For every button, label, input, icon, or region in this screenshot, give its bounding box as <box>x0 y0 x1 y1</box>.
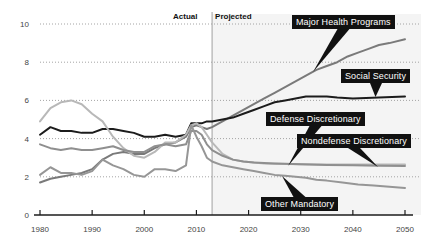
y-tick-label: 10 <box>20 20 29 29</box>
y-tick-label: 2 <box>25 173 30 182</box>
actual-period-label: Actual <box>173 12 197 21</box>
x-tick-label: 2020 <box>240 225 258 234</box>
callout-arrow <box>370 83 384 99</box>
y-tick-label: 0 <box>25 211 30 220</box>
callout-nondefense-discretionary: Nondefense Discretionary <box>297 134 411 148</box>
y-tick-label: 8 <box>25 58 30 67</box>
x-tick-label: 2030 <box>292 225 310 234</box>
callout-defense-discretionary: Defense Discretionary <box>266 112 365 126</box>
callout-arrow <box>348 148 381 169</box>
x-axis-tick-labels: 19801990200020102020203020402050 <box>31 225 414 234</box>
x-tick-label: 1990 <box>83 225 101 234</box>
callout-arrow <box>281 176 308 199</box>
y-axis-tick-labels: 0246810 <box>20 20 29 220</box>
callout-other-mandatory: Other Mandatory <box>261 197 338 211</box>
chart-container: 0246810 19801990200020102020203020402050… <box>0 0 430 250</box>
callout-major-health-programs: Major Health Programs <box>292 15 395 29</box>
x-tick-label: 2000 <box>135 225 153 234</box>
x-tick-label: 2050 <box>396 225 414 234</box>
x-tick-label: 1980 <box>31 225 49 234</box>
chart-plot-area: 0246810 19801990200020102020203020402050 <box>0 0 430 250</box>
projected-period-label: Projected <box>215 12 251 21</box>
callout-arrow <box>312 29 352 74</box>
callout-social-security: Social Security <box>341 69 410 83</box>
x-tick-label: 2040 <box>344 225 362 234</box>
x-tick-label: 2010 <box>188 225 206 234</box>
y-tick-label: 4 <box>25 135 30 144</box>
y-tick-label: 6 <box>25 96 30 105</box>
